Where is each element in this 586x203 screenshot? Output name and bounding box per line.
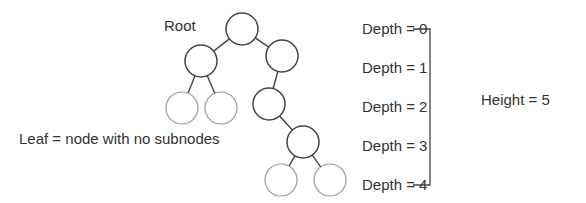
leaf-node [265,164,297,196]
tree-edge [312,155,320,167]
root-node [226,13,258,45]
tree-edge [255,38,268,47]
tree-node [185,45,217,77]
depth-label-2: Depth = 2 [362,98,427,116]
depth-label-0: Depth = 0 [362,20,427,38]
tree-edge [207,76,214,94]
tree-edge [289,156,295,166]
tree-node [253,88,285,120]
tree-edge [214,39,230,51]
tree-node [287,126,319,158]
tree-nodes [166,13,346,196]
depth-label-1: Depth = 1 [362,59,427,77]
depth-label-4: Depth = 4 [362,176,427,194]
tree-edge [273,71,278,88]
leaf-definition-label: Leaf = node with no subnodes [19,130,220,148]
tree-edge [280,116,293,130]
depth-label-3: Depth = 3 [362,137,427,155]
leaf-node [166,92,198,124]
tree-node [266,40,298,72]
root-label: Root [164,17,196,35]
height-label: Height = 5 [481,91,550,109]
leaf-node [314,164,346,196]
tree-edge [188,76,195,93]
leaf-node [205,92,237,124]
